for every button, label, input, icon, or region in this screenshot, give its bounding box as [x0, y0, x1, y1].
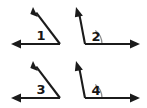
angle-2-upper-left-ray — [79, 13, 85, 44]
angle-1-horizontal-left-arrowhead — [11, 40, 21, 49]
angles-diagram-svg: 1 2 3 4 — [0, 0, 147, 108]
angle-3-group: 3 — [11, 61, 60, 102]
angle-2-group: 2 — [75, 7, 140, 48]
angle-2-horizontal-right-arrowhead — [130, 40, 140, 49]
angle-4-label: 4 — [91, 83, 100, 98]
angle-1-upper-left-arrowhead — [30, 7, 38, 17]
angle-4-group: 4 — [75, 61, 140, 102]
angle-3-horizontal-left-arrowhead — [11, 94, 21, 103]
angles-figure: 1 2 3 4 — [0, 0, 147, 108]
angle-4-upper-left-arrowhead — [75, 61, 83, 71]
angle-1-group: 1 — [11, 7, 60, 48]
angle-4-horizontal-right-arrowhead — [130, 94, 140, 103]
angle-4-upper-left-ray — [79, 67, 85, 98]
angle-2-upper-left-arrowhead — [75, 7, 83, 17]
angle-3-upper-left-arrowhead — [30, 61, 38, 71]
angle-3-label: 3 — [36, 82, 45, 97]
angle-2-label: 2 — [91, 29, 100, 44]
angle-1-label: 1 — [36, 28, 45, 43]
